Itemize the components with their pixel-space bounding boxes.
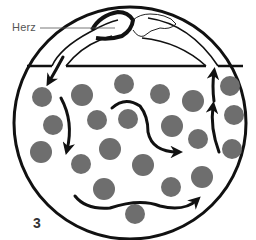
blood-cell [87, 110, 107, 130]
figure-number: 3 [33, 216, 41, 230]
circulation-diagram: Herz 3 [0, 0, 256, 240]
blood-cell [222, 139, 242, 159]
blood-cell [71, 154, 91, 174]
blood-cell [99, 138, 121, 160]
arrow-right-lower-icon [212, 106, 219, 152]
blood-cell [161, 115, 183, 137]
heart-label: Herz [12, 21, 36, 33]
blood-cell [220, 76, 240, 96]
blood-cell [132, 154, 154, 176]
blood-cell [188, 129, 208, 149]
blood-cell [125, 204, 145, 224]
arrow-right-upper-icon [213, 72, 214, 101]
blood-cell [93, 178, 115, 200]
vessel-inner-wall [66, 36, 206, 66]
blood-cell [224, 105, 244, 125]
blood-cell [43, 115, 63, 135]
arrow-outflow-icon [49, 57, 63, 82]
blood-cell [71, 84, 93, 106]
blood-cell [191, 166, 213, 188]
blood-cell [161, 177, 181, 197]
blood-cell [118, 109, 138, 129]
diagram-canvas [0, 0, 256, 240]
blood-cell [150, 84, 170, 104]
blood-cell [182, 90, 204, 112]
blood-cell [30, 141, 52, 163]
blood-cell [32, 87, 52, 107]
blood-cell [114, 74, 134, 94]
